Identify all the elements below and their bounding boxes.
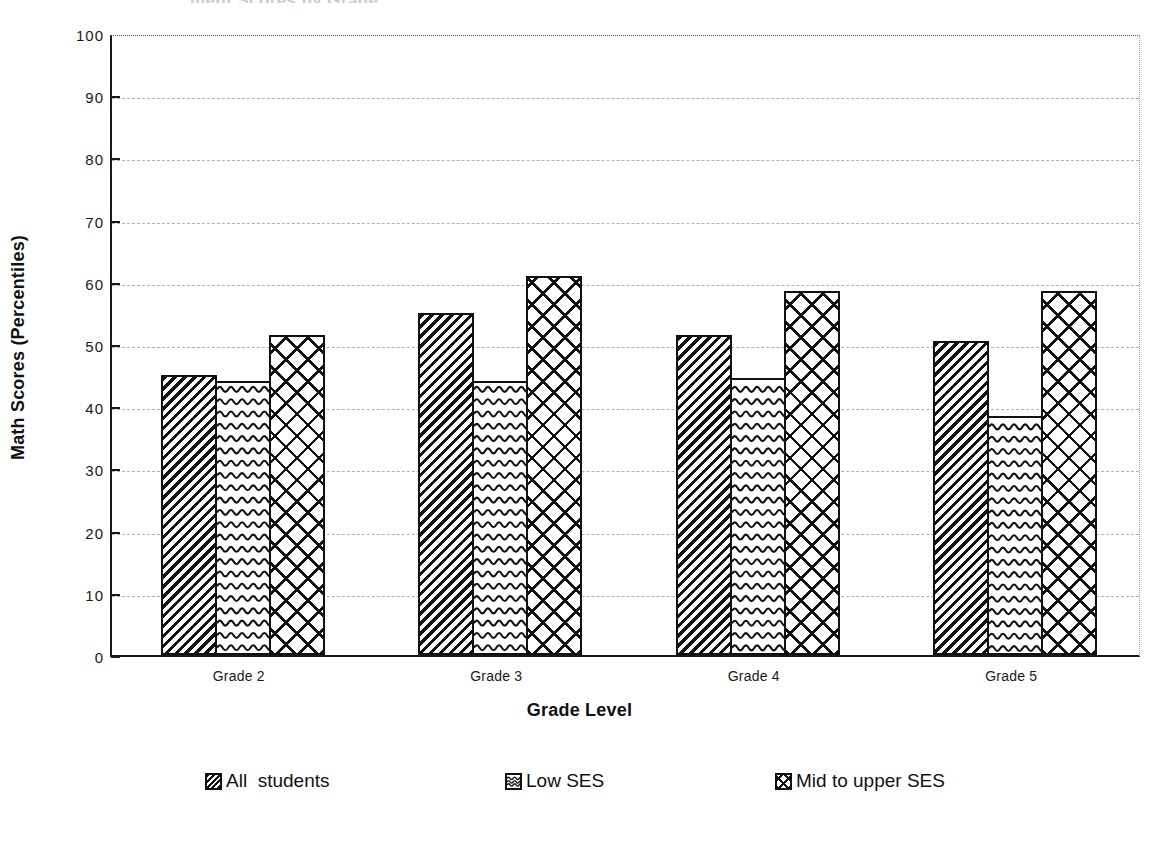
x-tick-label: Grade 4 — [664, 668, 844, 684]
x-tick-label: Grade 2 — [149, 668, 329, 684]
y-tick-label: 90 — [48, 89, 104, 106]
plot-area — [110, 35, 1140, 657]
wavy-pattern — [732, 380, 784, 653]
y-tick-label: 80 — [48, 151, 104, 168]
y-axis-title-text: Math Scores (Percentiles) — [9, 234, 30, 459]
y-tick-label: 0 — [48, 649, 104, 666]
bar[interactable] — [730, 378, 786, 655]
legend-swatch-icon — [775, 773, 792, 790]
y-tick-label: 60 — [48, 275, 104, 292]
legend-item[interactable]: Low SES — [505, 770, 604, 792]
bar[interactable] — [161, 375, 217, 655]
wavy-pattern — [989, 418, 1041, 653]
bar[interactable] — [933, 341, 989, 655]
legend-swatch-icon — [205, 773, 222, 790]
bar[interactable] — [269, 335, 325, 655]
bar-group — [933, 36, 1101, 655]
legend-label: Low SES — [526, 770, 604, 792]
y-tick-label: 100 — [48, 27, 104, 44]
bar[interactable] — [987, 416, 1043, 655]
y-axis-title: Math Scores (Percentiles) — [6, 172, 32, 522]
legend-label: All students — [226, 770, 330, 792]
y-tick-label: 20 — [48, 524, 104, 541]
wavy-pattern — [474, 383, 526, 653]
legend-label: Mid to upper SES — [796, 770, 945, 792]
bar[interactable] — [526, 276, 582, 655]
y-tick-label: 70 — [48, 213, 104, 230]
legend-item[interactable]: All students — [205, 770, 330, 792]
bar-group — [676, 36, 844, 655]
legend-swatch-icon — [505, 773, 522, 790]
bar[interactable] — [676, 335, 732, 655]
y-tick-label: 40 — [48, 400, 104, 417]
bar[interactable] — [784, 291, 840, 655]
bar[interactable] — [472, 381, 528, 655]
x-tick-label: Grade 3 — [406, 668, 586, 684]
wavy-pattern — [217, 383, 269, 653]
bar-group — [418, 36, 586, 655]
cropped-title-ghost: ment Scores by Grade — [190, 0, 910, 3]
legend-item[interactable]: Mid to upper SES — [775, 770, 945, 792]
y-tick-label: 30 — [48, 462, 104, 479]
x-axis-title: Grade Level — [0, 700, 1159, 721]
chart-legend: All studentsLow SESMid to upper SES — [0, 770, 1159, 804]
chart-figure: ment Scores by Grade Math Scores (Percen… — [0, 0, 1159, 841]
x-tick-label: Grade 5 — [921, 668, 1101, 684]
y-tick-label: 50 — [48, 338, 104, 355]
bar[interactable] — [1041, 291, 1097, 655]
y-tick-label: 10 — [48, 586, 104, 603]
bar[interactable] — [215, 381, 271, 655]
bar[interactable] — [418, 313, 474, 655]
bar-group — [161, 36, 329, 655]
